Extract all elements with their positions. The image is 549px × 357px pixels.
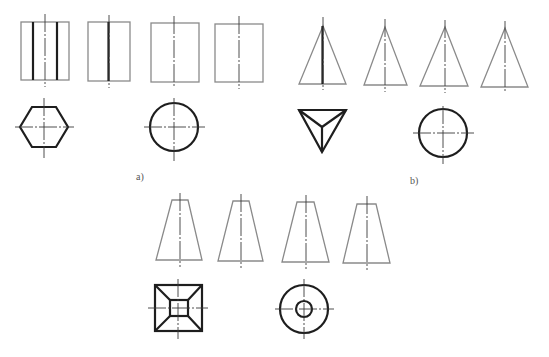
frustum-front-view-2 (218, 194, 263, 268)
square-frustum-top-view (148, 279, 208, 339)
frustum-front-view-3 (282, 195, 329, 269)
prism-front-view-1 (21, 14, 69, 87)
cone-front-view-3 (481, 21, 528, 93)
cylinder-front-view-2 (215, 16, 263, 89)
prism-front-view-2 (88, 15, 130, 88)
group-a: a) (15, 14, 263, 183)
cylinder-front-view-1 (151, 16, 199, 88)
frustum-front-view-1 (156, 193, 202, 267)
group-c (148, 193, 390, 339)
cone-front-view-1 (364, 19, 407, 92)
annulus-top-view (275, 279, 334, 339)
circle-top-view-a (144, 98, 205, 161)
label-a: a) (136, 171, 144, 183)
pyramid-front-view-1 (299, 17, 346, 90)
hexagon-top-view (15, 98, 74, 158)
triangular-pyramid-top-view (299, 110, 346, 152)
group-b: b) (299, 17, 528, 187)
drawing-canvas: a) b (0, 0, 549, 357)
cone-front-view-2 (420, 20, 468, 93)
frustum-front-view-4 (343, 196, 390, 270)
label-b: b) (410, 175, 418, 187)
circle-top-view-b (413, 106, 474, 164)
